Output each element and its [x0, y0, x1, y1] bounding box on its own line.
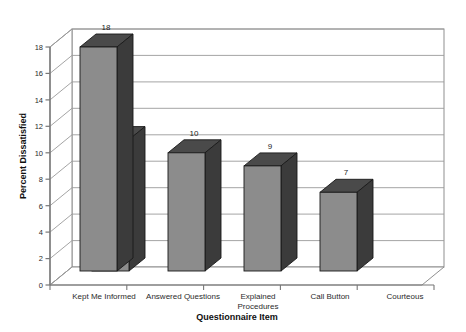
category-label-answered-questions: Answered Questions [146, 292, 220, 301]
y-tick-label-0: 0 [39, 281, 43, 290]
x-axis [50, 285, 434, 290]
y-axis-title: Percent Dissatisfied [18, 113, 28, 199]
bar-front-explained-procedures [168, 153, 205, 271]
bar-chart-3d: 18 16 14 12 10 8 6 4 2 0 [0, 0, 466, 332]
bar-group-kept-me-informed[interactable]: 18 [80, 23, 133, 271]
bar-value-label-kept-me-informed: 18 [102, 23, 111, 32]
bar-front-courteous [320, 192, 357, 271]
bar-side-kept-me-informed [117, 34, 133, 271]
y-axis: 18 16 14 12 10 8 6 4 2 0 [35, 43, 50, 290]
bar-value-label-call-button: 9 [268, 142, 273, 151]
bar-group-call-button[interactable]: 9 [244, 142, 297, 271]
bar-value-label-explained-procedures: 10 [190, 129, 199, 138]
y-tick-label-4: 4 [39, 228, 43, 237]
bar-side-explained-procedures [205, 140, 221, 271]
bar-group-explained-procedures[interactable]: 10 [168, 129, 221, 272]
category-label-call-button: Call Button [310, 292, 349, 301]
y-tick-label-16: 16 [35, 69, 43, 78]
bar-side-call-button [281, 153, 297, 271]
y-tick-label-14: 14 [35, 96, 43, 105]
category-label-explained-procedures-line1: Explained [240, 292, 275, 301]
x-axis-title: Questionnaire Item [196, 312, 278, 322]
left-wall [50, 29, 72, 285]
category-label-courteous: Courteous [387, 292, 424, 301]
category-label-explained-procedures-line2: Procedures [238, 302, 279, 311]
category-label-kept-me-informed: Kept Me Informed [72, 292, 136, 301]
bar-value-label-courteous: 7 [344, 168, 349, 177]
chart-page: 18 16 14 12 10 8 6 4 2 0 [0, 0, 466, 332]
y-tick-label-18: 18 [35, 43, 43, 52]
y-tick-label-8: 8 [39, 175, 43, 184]
y-tick-label-10: 10 [35, 149, 43, 158]
bar-side-courteous [357, 179, 373, 271]
bar-front-kept-me-informed [80, 47, 117, 271]
category-labels: Kept Me Informed Answered Questions Expl… [72, 292, 423, 311]
y-tick-label-6: 6 [39, 202, 43, 211]
bar-front-call-button [244, 166, 281, 271]
y-tick-label-12: 12 [35, 122, 43, 131]
y-tick-label-2: 2 [39, 254, 43, 263]
